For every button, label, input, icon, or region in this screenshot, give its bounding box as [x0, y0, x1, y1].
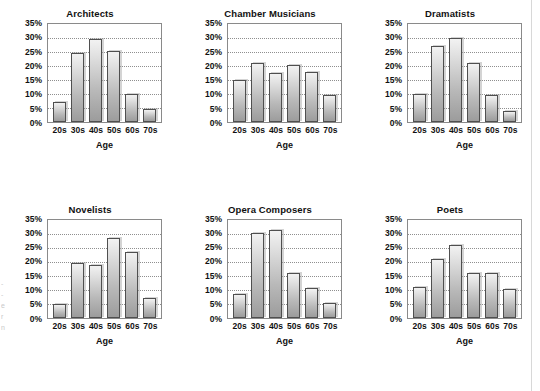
bar [251, 63, 264, 122]
y-axis-tick-label: 30% [385, 228, 402, 238]
bar [485, 95, 498, 122]
y-axis-tick-label: 20% [205, 256, 222, 266]
y-axis-tick-label: 35% [385, 214, 402, 224]
y-axis-tick-label: 10% [385, 89, 402, 99]
x-axis-tick-label: 20s [233, 125, 246, 135]
y-axis-tick-label: 35% [205, 214, 222, 224]
bar-series [228, 24, 341, 122]
x-axis: 20s30s40s50s60s70s [407, 321, 522, 331]
y-axis-tick-label: 0% [30, 118, 42, 128]
x-axis-tick-label: 60s [485, 125, 498, 135]
y-axis-tick-label: 20% [385, 256, 402, 266]
y-axis-tick-label: 30% [205, 32, 222, 42]
bar [503, 111, 516, 122]
x-axis-tick-label: 40s [89, 125, 102, 135]
x-axis-label: Age [227, 336, 342, 346]
bar [287, 65, 300, 122]
x-axis-tick-label: 20s [233, 321, 246, 331]
plot-wrapper: 0%5%10%15%20%25%30%35%20s30s40s50s60s70s… [374, 23, 526, 143]
y-axis-tick-label: 15% [25, 271, 42, 281]
x-axis-tick-label: 30s [431, 125, 444, 135]
y-axis-tick-label: 5% [210, 299, 222, 309]
y-axis-tick-label: 10% [25, 89, 42, 99]
x-axis-tick-label: 70s [323, 321, 336, 331]
y-axis-tick-label: 25% [385, 242, 402, 252]
y-axis-tick-label: 30% [25, 228, 42, 238]
x-axis-tick-label: 30s [251, 321, 264, 331]
x-axis-label: Age [407, 336, 522, 346]
chart-panel: Novelists0%5%10%15%20%25%30%35%20s30s40s… [0, 196, 180, 391]
chart-grid: Architects0%5%10%15%20%25%30%35%20s30s40… [0, 0, 540, 391]
y-axis-tick-label: 15% [205, 271, 222, 281]
x-axis-tick-label: 40s [89, 321, 102, 331]
x-axis-tick-label: 60s [485, 321, 498, 331]
bar [71, 53, 84, 122]
x-axis-tick-label: 50s [287, 125, 300, 135]
y-axis-tick-label: 35% [25, 214, 42, 224]
plot-area [407, 219, 522, 319]
y-axis-tick-label: 10% [205, 89, 222, 99]
plot-area [227, 23, 342, 123]
x-axis-tick-label: 20s [53, 321, 66, 331]
x-axis-tick-label: 20s [413, 125, 426, 135]
bar [233, 294, 246, 317]
x-axis-tick-label: 60s [125, 125, 138, 135]
bar [251, 233, 264, 318]
x-axis-tick-label: 70s [503, 321, 516, 331]
y-axis-tick-label: 30% [385, 32, 402, 42]
chart-panel: Poets0%5%10%15%20%25%30%35%20s30s40s50s6… [360, 196, 540, 391]
bar [107, 238, 120, 317]
x-axis-tick-label: 70s [323, 125, 336, 135]
x-axis-tick-label: 40s [269, 125, 282, 135]
x-axis: 20s30s40s50s60s70s [407, 125, 522, 135]
bar [107, 51, 120, 122]
bar [449, 38, 462, 122]
y-axis: 0%5%10%15%20%25%30%35% [374, 219, 405, 319]
bar [467, 63, 480, 122]
y-axis-tick-label: 20% [25, 256, 42, 266]
y-axis-tick-label: 30% [25, 32, 42, 42]
y-axis-tick-label: 0% [30, 314, 42, 324]
bar [143, 298, 156, 318]
chart-panel: Architects0%5%10%15%20%25%30%35%20s30s40… [0, 0, 180, 196]
y-axis-tick-label: 25% [205, 47, 222, 57]
y-axis-tick-label: 30% [205, 228, 222, 238]
y-axis-tick-label: 5% [30, 104, 42, 114]
bar [269, 73, 282, 122]
chart-panel: Dramatists0%5%10%15%20%25%30%35%20s30s40… [360, 0, 540, 196]
plot-wrapper: 0%5%10%15%20%25%30%35%20s30s40s50s60s70s… [194, 23, 346, 143]
x-axis-tick-label: 40s [269, 321, 282, 331]
bar-series [48, 220, 161, 318]
y-axis-tick-label: 0% [390, 118, 402, 128]
bar [323, 303, 336, 318]
plot-area [407, 23, 522, 123]
bar [89, 265, 102, 317]
x-axis-tick-label: 20s [413, 321, 426, 331]
bar [413, 287, 426, 317]
bar [125, 94, 138, 122]
x-axis-label: Age [47, 140, 162, 150]
bar [233, 80, 246, 122]
y-axis-tick-label: 15% [385, 271, 402, 281]
plot-area [227, 219, 342, 319]
bar [305, 288, 318, 317]
bar [143, 109, 156, 122]
bar [467, 273, 480, 318]
y-axis-tick-label: 5% [390, 104, 402, 114]
y-axis-tick-label: 0% [210, 314, 222, 324]
y-axis-tick-label: 15% [205, 75, 222, 85]
bar-series [48, 24, 161, 122]
y-axis-tick-label: 0% [390, 314, 402, 324]
y-axis: 0%5%10%15%20%25%30%35% [14, 23, 45, 123]
x-axis-label: Age [227, 140, 342, 150]
x-axis-tick-label: 30s [71, 321, 84, 331]
x-axis-tick-label: 50s [467, 321, 480, 331]
bar [449, 245, 462, 318]
y-axis-tick-label: 20% [385, 61, 402, 71]
x-axis-tick-label: 60s [305, 125, 318, 135]
y-axis-tick-label: 10% [205, 285, 222, 295]
bar-series [408, 24, 521, 122]
y-axis: 0%5%10%15%20%25%30%35% [374, 23, 405, 123]
y-axis-tick-label: 20% [25, 61, 42, 71]
plot-area [47, 219, 162, 319]
